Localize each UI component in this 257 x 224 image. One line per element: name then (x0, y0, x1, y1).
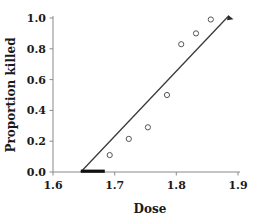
y-axis-title: Proportion killed (4, 37, 18, 153)
x-axis-title: Dose (134, 202, 167, 216)
x-tick-label-1: 1.7 (105, 179, 124, 192)
x-tick-label-0: 1.6 (43, 179, 62, 192)
x-tick-label-3: 1.9 (228, 179, 247, 192)
y-tick-label-2: 0.4 (27, 104, 46, 117)
x-tick-label-2: 1.8 (167, 179, 186, 192)
y-tick-label-1: 0.2 (27, 135, 46, 148)
y-tick-label-0: 0.0 (27, 166, 46, 179)
y-tick-label-4: 0.8 (27, 43, 46, 56)
chart-figure: 0.0 0.2 0.4 0.6 0.8 1.0 1.6 1.7 1.8 1.9 … (0, 0, 257, 224)
y-tick-label-3: 0.6 (27, 74, 46, 87)
dose-response-plot: 0.0 0.2 0.4 0.6 0.8 1.0 1.6 1.7 1.8 1.9 … (0, 0, 257, 224)
y-tick-label-5: 1.0 (27, 12, 46, 25)
